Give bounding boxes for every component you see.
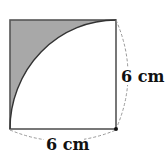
shaded-region xyxy=(10,20,116,129)
right-side-label: 6 cm xyxy=(121,67,164,86)
geometry-diagram: 6 cm 6 cm xyxy=(0,0,165,162)
corner-point xyxy=(114,127,118,131)
bottom-side-label: 6 cm xyxy=(46,135,89,154)
